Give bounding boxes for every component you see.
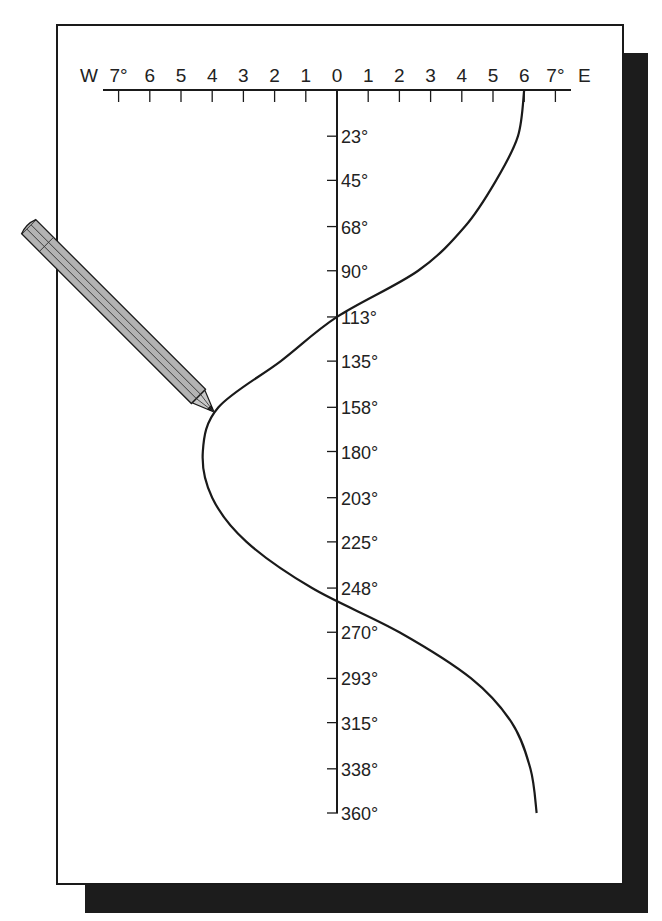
deviation-diagram: W E 7°65432101234567° 23°45°68°90°113°13…: [0, 0, 662, 921]
vertical-tick-label: 360°: [341, 804, 378, 824]
east-label: E: [578, 65, 591, 86]
vertical-tick-label: 225°: [341, 533, 378, 553]
vertical-tick-label: 68°: [341, 218, 368, 238]
horizontal-tick-label: 3: [425, 65, 436, 86]
vertical-tick-label: 158°: [341, 398, 378, 418]
vertical-tick-label: 270°: [341, 623, 378, 643]
vertical-ticks: 23°45°68°90°113°135°158°180°203°225°248°…: [327, 127, 378, 824]
horizontal-tick-label: 6: [145, 65, 156, 86]
west-label: W: [80, 65, 98, 86]
vertical-tick-label: 338°: [341, 760, 378, 780]
vertical-tick-label: 23°: [341, 127, 368, 147]
horizontal-tick-label: 4: [457, 65, 468, 86]
vertical-tick-label: 180°: [341, 443, 378, 463]
horizontal-tick-label: 7°: [546, 65, 564, 86]
vertical-tick-label: 315°: [341, 714, 378, 734]
vertical-tick-label: 293°: [341, 669, 378, 689]
vertical-tick-label: 45°: [341, 171, 368, 191]
horizontal-tick-label: 0: [332, 65, 343, 86]
vertical-tick-label: 90°: [341, 262, 368, 282]
horizontal-tick-label: 1: [363, 65, 374, 86]
vertical-tick-label: 135°: [341, 352, 378, 372]
horizontal-tick-label: 2: [269, 65, 280, 86]
horizontal-tick-label: 2: [394, 65, 405, 86]
horizontal-tick-label: 4: [207, 65, 218, 86]
horizontal-tick-label: 5: [488, 65, 499, 86]
horizontal-axis: W E 7°65432101234567°: [80, 65, 591, 102]
vertical-tick-label: 248°: [341, 579, 378, 599]
horizontal-tick-label: 7°: [110, 65, 128, 86]
horizontal-tick-label: 6: [519, 65, 530, 86]
horizontal-tick-label: 3: [238, 65, 249, 86]
horizontal-tick-label: 5: [176, 65, 187, 86]
pencil-icon: [20, 218, 221, 419]
vertical-tick-label: 203°: [341, 489, 378, 509]
vertical-axis: 23°45°68°90°113°135°158°180°203°225°248°…: [327, 90, 378, 824]
horizontal-tick-label: 1: [301, 65, 312, 86]
